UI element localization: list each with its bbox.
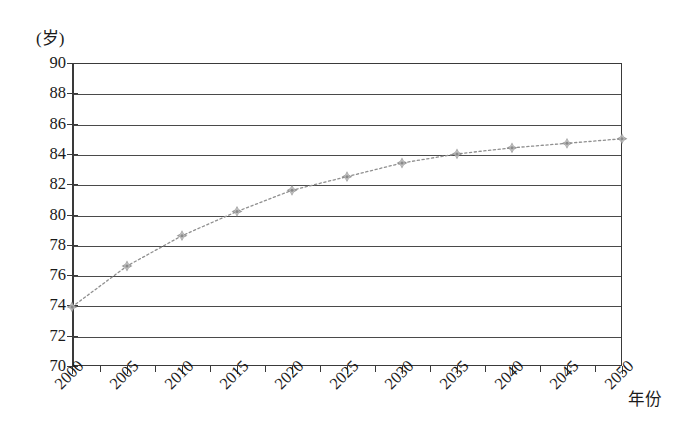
x-axis-tick-label: 2005 bbox=[107, 358, 142, 393]
x-axis-tick-label-group: 2000200520102015202020252030203520402045… bbox=[0, 0, 685, 444]
x-axis-tick-label: 2040 bbox=[492, 358, 527, 393]
x-axis-tick-label: 2045 bbox=[547, 358, 582, 393]
x-axis-tick-label: 2050 bbox=[602, 358, 637, 393]
x-axis-tick-label: 2015 bbox=[217, 358, 252, 393]
x-axis-tick-label: 2010 bbox=[162, 358, 197, 393]
chart-root: (岁) 9088868482807876747270 2000200520102… bbox=[0, 0, 685, 444]
x-axis-tick-label: 2035 bbox=[437, 358, 472, 393]
x-axis-tick-label: 2020 bbox=[272, 358, 307, 393]
x-axis-tick-label: 2000 bbox=[52, 358, 87, 393]
x-axis-title: 年份 bbox=[628, 392, 662, 409]
x-axis-tick-label: 2025 bbox=[327, 358, 362, 393]
x-axis-tick-label: 2030 bbox=[382, 358, 417, 393]
